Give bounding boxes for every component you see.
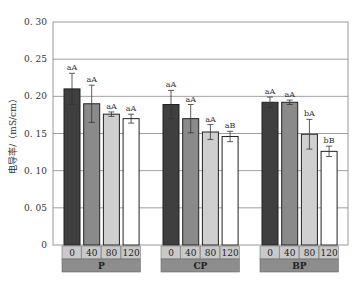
significance-label: bB: [324, 136, 335, 145]
y-tick-label: 0. 15: [24, 129, 47, 139]
category-label: 40: [284, 248, 296, 258]
y-tick-label: 0: [41, 240, 47, 250]
category-label: 0: [168, 248, 174, 258]
group-label: BP: [292, 261, 307, 271]
significance-label: aA: [185, 95, 196, 104]
bar: [183, 119, 199, 245]
bar: [321, 151, 337, 245]
significance-label: aA: [265, 87, 276, 96]
significance-label: aA: [166, 80, 177, 89]
bar: [222, 136, 238, 245]
bar: [202, 132, 218, 245]
bars: aAaAaAaAaAaAaAaBaAaAbAbB: [64, 63, 337, 245]
significance-label: bA: [304, 109, 315, 118]
category-label: 40: [185, 248, 197, 258]
category-label: 40: [86, 248, 98, 258]
category-label: 120: [123, 248, 140, 258]
y-tick-label: 0. 25: [24, 54, 47, 64]
x-axis-categories: 04080120P04080120CP04080120BP: [62, 246, 338, 272]
group-label: P: [98, 261, 105, 271]
significance-label: aA: [106, 102, 117, 111]
y-tick-label: 0. 20: [24, 91, 47, 101]
bar-group-p: aAaAaAaA: [64, 63, 139, 245]
bar: [163, 105, 179, 245]
y-tick-label: 0. 10: [24, 166, 47, 176]
significance-label: aB: [225, 121, 236, 130]
y-axis-label: 电导率/（mS/cm）: [7, 94, 18, 173]
bar: [103, 114, 119, 245]
bar: [262, 102, 278, 245]
category-label: 80: [304, 248, 316, 258]
category-label: 120: [321, 248, 338, 258]
y-tick-label: 0. 05: [24, 203, 47, 213]
significance-label: aA: [284, 90, 295, 99]
category-label: 120: [222, 248, 239, 258]
significance-label: aA: [205, 115, 216, 124]
bar: [84, 104, 100, 245]
bar: [301, 134, 317, 245]
group-label: CP: [193, 261, 207, 271]
category-label: 80: [205, 248, 217, 258]
y-axis-ticks: 00. 050. 100. 150. 200. 250. 30: [24, 17, 47, 250]
significance-label: aA: [126, 104, 137, 113]
bar: [123, 119, 139, 245]
bar: [282, 102, 298, 245]
significance-label: aA: [67, 63, 78, 72]
category-label: 0: [69, 248, 75, 258]
bar-chart: 00. 050. 100. 150. 200. 250. 30 电导率/（mS/…: [0, 0, 361, 289]
bar-group-cp: aAaAaAaB: [163, 80, 238, 245]
category-label: 80: [106, 248, 118, 258]
y-tick-label: 0. 30: [24, 17, 47, 27]
significance-label: aA: [86, 75, 97, 84]
bar: [64, 89, 80, 245]
category-label: 0: [267, 248, 273, 258]
bar-group-bp: aAaAbAbB: [262, 87, 337, 245]
